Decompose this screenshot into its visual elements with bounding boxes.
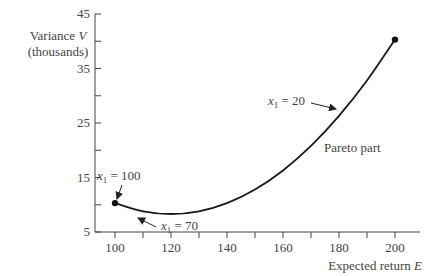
frontier-curve	[115, 40, 395, 214]
x-tick-label: 180	[329, 240, 349, 255]
x-tick-label: 140	[217, 240, 237, 255]
y-tick-label: 15	[77, 170, 90, 185]
y-tick-label: 25	[77, 115, 90, 130]
svg-text:x1 = 70: x1 = 70	[160, 218, 198, 235]
x-tick-label: 160	[273, 240, 293, 255]
chart: 515253545 100120140160180200 Variance V …	[0, 0, 432, 276]
x-tick-label: 200	[385, 240, 405, 255]
y-axis-label-line2: (thousands)	[28, 44, 89, 59]
endpoint-dots	[112, 36, 398, 206]
x-ticks: 100120140160180200	[105, 232, 405, 255]
svg-text:x1 = 100: x1 = 100	[96, 168, 141, 185]
annotation-x1-20: x1 = 20	[267, 93, 336, 110]
y-tick-label: 45	[77, 6, 90, 21]
y-axis-label-line1: Variance V	[30, 28, 89, 43]
svg-text:x1 = 20: x1 = 20	[267, 93, 305, 110]
pareto-part-label: Pareto part	[324, 140, 381, 155]
annotation-x1-100: x1 = 100	[96, 168, 141, 199]
x-tick-label: 120	[161, 240, 181, 255]
x-axis-label: Expected return E	[328, 258, 422, 273]
x-tick-label: 100	[105, 240, 125, 255]
endpoint-dot	[112, 200, 118, 206]
y-tick-label: 35	[77, 61, 90, 76]
endpoint-dot	[392, 36, 398, 42]
y-tick-label: 5	[84, 224, 91, 239]
